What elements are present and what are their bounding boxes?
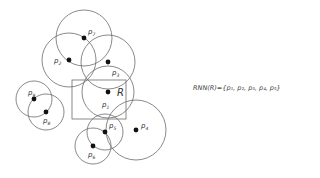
label-p1: p1	[101, 101, 109, 110]
label-p9: p9	[27, 89, 35, 98]
point-p6	[91, 144, 96, 149]
point-p5	[103, 130, 108, 135]
point-p7	[82, 36, 87, 41]
label-p5: p5	[108, 122, 116, 131]
rnn-result-formula: RNN(R)={p₁, p₂, p₃, p₄, p₅}	[193, 84, 281, 92]
point-p3	[106, 60, 111, 65]
label-p2: p2	[53, 57, 61, 66]
label-p4: p4	[140, 122, 148, 131]
point-p4	[134, 128, 139, 133]
region-label: R	[117, 87, 124, 98]
label-p3: p3	[111, 69, 119, 78]
label-p8: p8	[42, 117, 50, 126]
point-p8	[44, 110, 49, 115]
label-p7: p7	[87, 28, 95, 37]
label-p6: p6	[87, 151, 95, 160]
query-region-rectangle	[72, 80, 126, 119]
point-p1	[106, 90, 111, 95]
point-p2	[67, 58, 72, 63]
